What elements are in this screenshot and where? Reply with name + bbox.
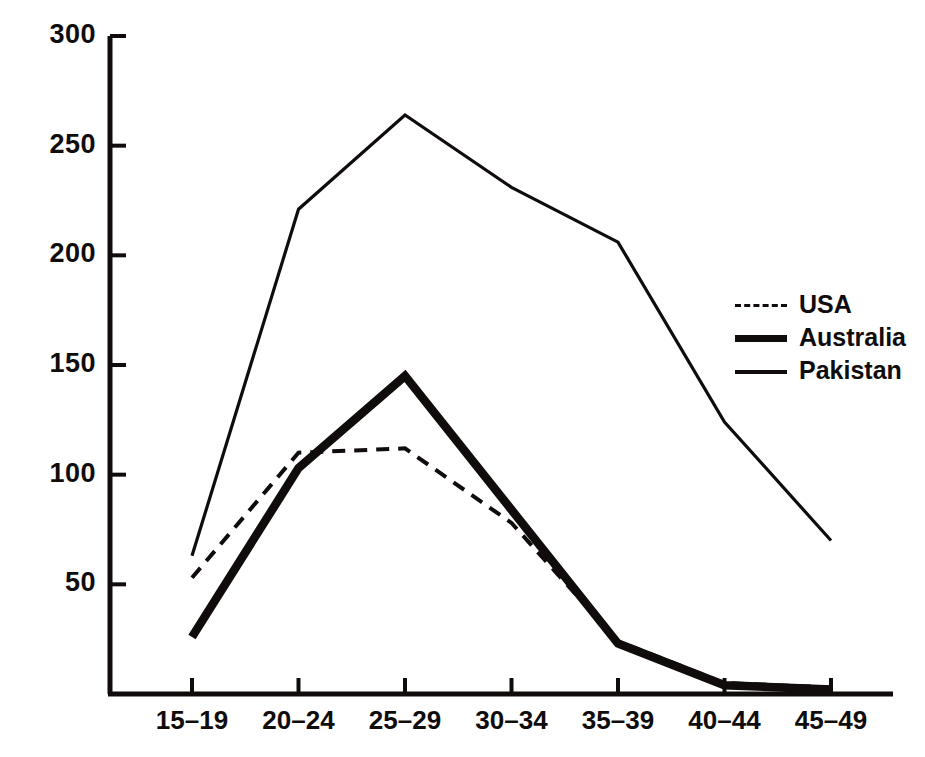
y-tick-label: 50 xyxy=(14,567,96,598)
chart-container: 50100150200250300 15–1920–2425–2930–3435… xyxy=(0,0,925,757)
thin-line-swatch-icon xyxy=(735,363,787,379)
series-paths xyxy=(192,115,831,690)
y-tick-label: 200 xyxy=(14,238,96,269)
legend-item-australia[interactable]: Australia xyxy=(735,321,920,354)
series-line-australia xyxy=(192,376,831,690)
chart-legend: USA Australia Pakistan xyxy=(735,288,920,387)
thick-line-swatch-icon xyxy=(735,330,787,346)
x-tick-label: 45–49 xyxy=(761,705,901,736)
legend-item-label: Australia xyxy=(799,325,906,350)
legend-item-usa[interactable]: USA xyxy=(735,288,920,321)
y-tick-label: 100 xyxy=(14,458,96,489)
dashed-line-swatch-icon xyxy=(735,297,787,313)
legend-item-pakistan[interactable]: Pakistan xyxy=(735,354,920,387)
legend-item-label: USA xyxy=(799,292,852,317)
y-tick-label: 150 xyxy=(14,348,96,379)
y-tick-label: 250 xyxy=(14,129,96,160)
y-tick-label: 300 xyxy=(14,19,96,50)
legend-item-label: Pakistan xyxy=(799,358,902,383)
